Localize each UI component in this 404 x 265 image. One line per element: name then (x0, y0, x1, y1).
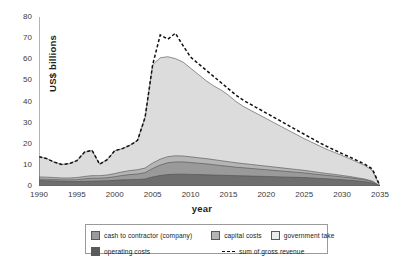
legend-row-1: cash to contractor (company) capital cos… (91, 229, 322, 241)
legend-swatch-capital-costs (211, 231, 220, 240)
y-tick-label: 0 (10, 181, 32, 190)
y-tick-label: 60 (10, 54, 32, 63)
y-tick-label: 20 (10, 139, 32, 148)
legend-row-2: operating costs sum of gross revenue (91, 245, 322, 257)
legend-label-capital-costs: capital costs (224, 232, 262, 239)
legend-dash-icon (222, 251, 235, 252)
x-tick-label: 2030 (322, 190, 362, 199)
legend-item-sum-of-gross-revenue: sum of gross revenue (222, 248, 304, 255)
legend-item-cash-to-contractor: cash to contractor (company) (91, 231, 192, 240)
y-tick-label: 40 (10, 97, 32, 106)
x-tick-label: 2020 (246, 190, 286, 199)
legend-item-operating-costs: operating costs (91, 247, 196, 256)
x-tick-label: 2035 (360, 190, 400, 199)
x-tick-label: 2025 (284, 190, 324, 199)
legend-label-sum-of-gross-revenue: sum of gross revenue (239, 248, 304, 255)
y-tick-label: 10 (10, 160, 32, 169)
y-tick-label: 80 (10, 12, 32, 21)
legend-label-cash-to-contractor: cash to contractor (company) (104, 232, 192, 239)
legend-label-government-take: government take (284, 232, 335, 239)
legend-item-government-take: government take (271, 231, 335, 240)
x-tick-label: 2010 (171, 190, 211, 199)
legend-item-capital-costs: capital costs (211, 231, 262, 240)
legend-swatch-operating-costs (91, 247, 100, 256)
x-tick-label: 2015 (208, 190, 248, 199)
x-tick-label: 1995 (57, 190, 97, 199)
chart-figure: US$ billions year 01020304050607080 1990… (0, 0, 404, 265)
x-tick-label: 2005 (133, 190, 173, 199)
y-tick-label: 50 (10, 75, 32, 84)
y-tick-label: 70 (10, 33, 32, 42)
chart-legend: cash to contractor (company) capital cos… (85, 224, 328, 254)
y-tick-label: 30 (10, 118, 32, 127)
legend-swatch-cash-to-contractor (91, 231, 100, 240)
plot-area (39, 17, 380, 186)
x-tick-label: 1990 (19, 190, 59, 199)
legend-label-operating-costs: operating costs (104, 248, 150, 255)
x-tick-label: 2000 (95, 190, 135, 199)
stacked-area-svg (39, 17, 380, 186)
x-axis-title: year (0, 203, 404, 214)
legend-swatch-government-take (271, 231, 280, 240)
